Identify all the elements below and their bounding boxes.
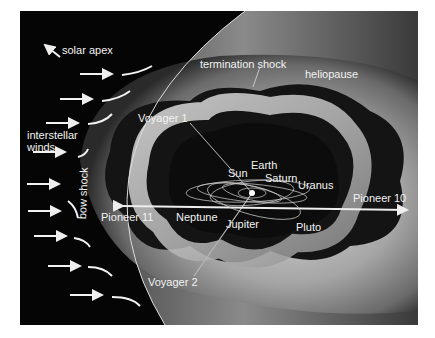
bow-shock-label: bow shock: [76, 167, 90, 219]
solar-apex-label: solar apex: [62, 44, 113, 56]
solar-apex-arrow: [45, 45, 60, 57]
planet-label-earth: Earth: [251, 159, 277, 171]
planet-label-pluto: Pluto: [296, 221, 321, 233]
pioneer-11-label: Pioneer 11: [101, 211, 153, 223]
pioneer-10-label: Pioneer 10: [353, 192, 406, 204]
planet-label-neptune: Neptune: [176, 211, 218, 223]
planet-label-saturn: Saturn: [265, 172, 297, 184]
interstellar-winds-label: interstellar winds: [27, 129, 87, 153]
voyager-2-label: Voyager 2: [148, 276, 198, 288]
planet-label-sun: Sun: [228, 167, 248, 179]
heliosphere-diagram: solar apex termination shock heliopause …: [20, 11, 418, 325]
planet-label-jupiter: Jupiter: [226, 218, 259, 230]
voyager-1-label: Voyager 1: [138, 112, 188, 124]
sun-marker: [249, 190, 255, 196]
interstellar-winds-text: interstellar winds: [27, 129, 78, 153]
termination-shock-label: termination shock: [200, 58, 286, 70]
planet-label-uranus: Uranus: [298, 179, 333, 191]
heliopause-label: heliopause: [305, 68, 358, 80]
